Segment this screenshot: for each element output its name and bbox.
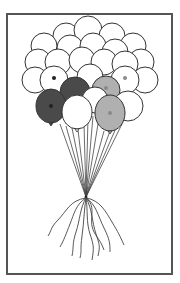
balloon-knot [49,123,53,126]
balloon-string [66,126,86,197]
balloon-highlight-dot [104,86,108,90]
balloon-highlight-dot [49,104,53,108]
front-balloons [36,89,125,134]
balloon-string [86,128,116,197]
balloon-knot [108,131,112,134]
balloon-highlight-dot [52,76,56,80]
string-tails [48,196,124,261]
balloon [62,95,92,129]
string-tail [48,198,86,236]
balloon-string [86,131,110,197]
balloon-bunch-illustration [0,0,180,283]
balloon-highlight-dot [108,111,112,115]
balloon-highlight-dot [123,76,127,80]
string-tail [60,198,86,247]
balloon-string [60,124,86,197]
string-tail [72,198,86,256]
string-tail [80,198,86,258]
